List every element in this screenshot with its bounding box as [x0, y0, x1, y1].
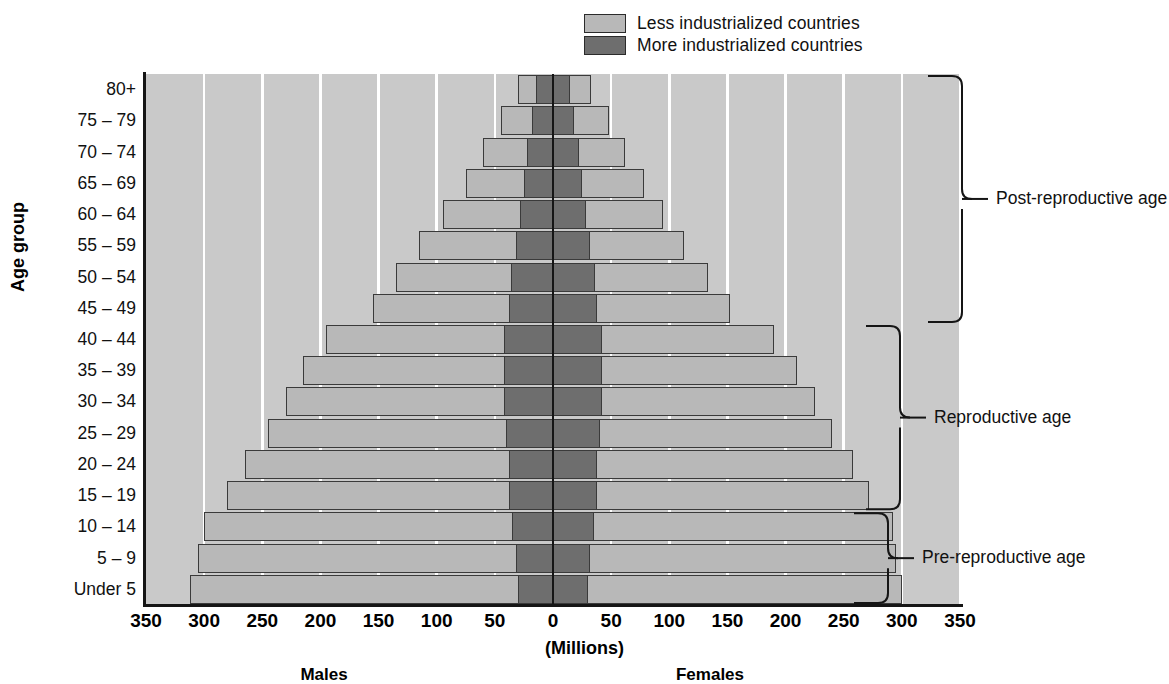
annotation-label: Pre-reproductive age [922, 547, 1085, 568]
population-pyramid-figure: Less industrialized countries More indus… [0, 0, 1169, 684]
